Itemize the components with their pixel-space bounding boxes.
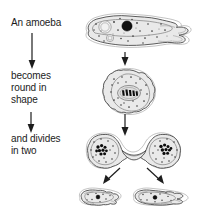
stage-3-dividing-amoeba (86, 133, 180, 169)
stage-4-daughter-amoeba-left (79, 188, 121, 205)
stage-arrow-2-icon (122, 114, 129, 136)
stage-arrow-1-icon (122, 52, 129, 66)
amoeba-division-figure: An amoeba becomes round in shape and div… (0, 0, 198, 222)
split-arrow-right-icon (147, 168, 164, 184)
text-arrow-1-icon (29, 33, 36, 69)
text-arrow-2-icon (28, 112, 35, 133)
stage-1-feeding-amoeba (86, 14, 191, 48)
stage-2-rounded-amoeba (103, 68, 156, 114)
split-arrow-left-icon (103, 168, 120, 184)
stage-4-daughter-amoeba-right (133, 188, 188, 205)
amoeba-diagram-svg (0, 0, 198, 222)
